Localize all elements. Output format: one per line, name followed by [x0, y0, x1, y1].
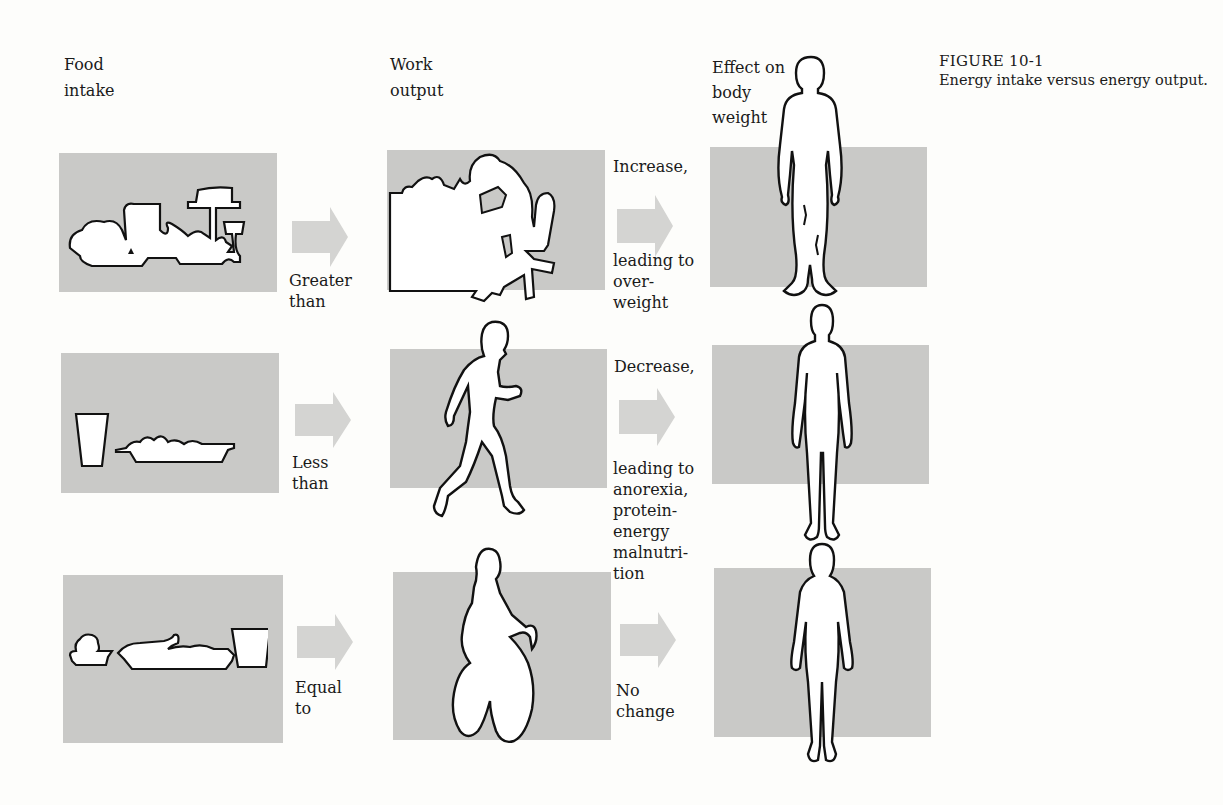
figure-number: FIGURE 10-1 [939, 52, 1044, 70]
label-line: leading to [613, 250, 694, 271]
column-heading-work-output: Work output [390, 52, 443, 104]
arrow-right-icon [295, 392, 351, 448]
effect-detail-row1: leading to over- weight [613, 250, 694, 313]
arrow-right-icon [292, 207, 348, 267]
label-line: protein- [613, 500, 694, 521]
label-line: Greater [289, 270, 352, 291]
thin-figure-icon [787, 303, 857, 548]
heading-line: body [712, 80, 785, 105]
heading-line: weight [712, 105, 785, 130]
heading-line: Work [390, 52, 443, 78]
person-at-desk-icon [384, 135, 604, 305]
cyclist-icon [440, 545, 550, 755]
arrow-right-icon [297, 614, 353, 670]
arrow-right-icon [617, 195, 673, 257]
walking-person-icon [420, 316, 560, 536]
heading-line: Food [64, 52, 115, 78]
figure-caption: Energy intake versus energy output. [939, 72, 1208, 88]
effect-title-row1: Increase, [613, 156, 688, 177]
label-line: tion [613, 563, 694, 584]
label-line: over- [613, 271, 694, 292]
label-line: than [289, 291, 352, 312]
label-line: to [295, 698, 342, 719]
label-line: leading to [613, 458, 694, 479]
label-line: anorexia, [613, 479, 694, 500]
label-line: Equal [295, 677, 342, 698]
label-line: Less [292, 452, 329, 473]
label-line: energy [613, 521, 694, 542]
label-line: malnutri- [613, 542, 694, 563]
comparison-label-row1: Greater than [289, 270, 352, 312]
heading-line: intake [64, 78, 115, 104]
label-line: weight [613, 292, 694, 313]
arrow-right-icon [620, 612, 676, 668]
effect-detail-row2: leading to anorexia, protein- energy mal… [613, 458, 694, 584]
arrow-right-icon [619, 388, 675, 446]
label-line: than [292, 473, 329, 494]
comparison-label-row3: Equal to [295, 677, 342, 719]
column-heading-effect: Effect on body weight [712, 55, 785, 130]
comparison-label-row2: Less than [292, 452, 329, 494]
banquet-table-icon [64, 168, 276, 298]
glass-and-dish-icon [74, 410, 244, 480]
heading-line: output [390, 78, 443, 104]
effect-title-row2: Decrease, [614, 356, 695, 377]
heading-line: Effect on [712, 55, 785, 80]
column-heading-food-intake: Food intake [64, 52, 115, 104]
effect-title-row3: No [616, 680, 640, 701]
normal-figure-icon [782, 542, 862, 770]
heavy-figure-icon [776, 55, 846, 305]
balanced-meal-icon [68, 615, 268, 675]
effect-detail-row3: change [616, 701, 675, 722]
